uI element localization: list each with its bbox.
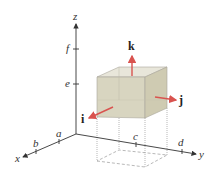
i-label: i [81, 112, 85, 126]
tick-a: a [56, 127, 62, 139]
tick-d: d [178, 136, 184, 148]
tick-c: c [133, 130, 138, 142]
z-axis-label: z [72, 10, 78, 22]
x-axis [23, 134, 76, 157]
tick-b: b [33, 137, 39, 149]
x-axis-label: x [14, 152, 20, 164]
j-label: j [178, 93, 183, 107]
tick-e: e [65, 77, 70, 89]
k-label: k [128, 39, 135, 53]
y-axis-label: y [198, 148, 204, 160]
tick-f: f [66, 42, 71, 54]
vector-box-diagram: z x y f e a b c d k j i [0, 0, 214, 178]
box-front [97, 77, 145, 118]
diagram-canvas: z x y f e a b c d k j i [0, 0, 214, 178]
